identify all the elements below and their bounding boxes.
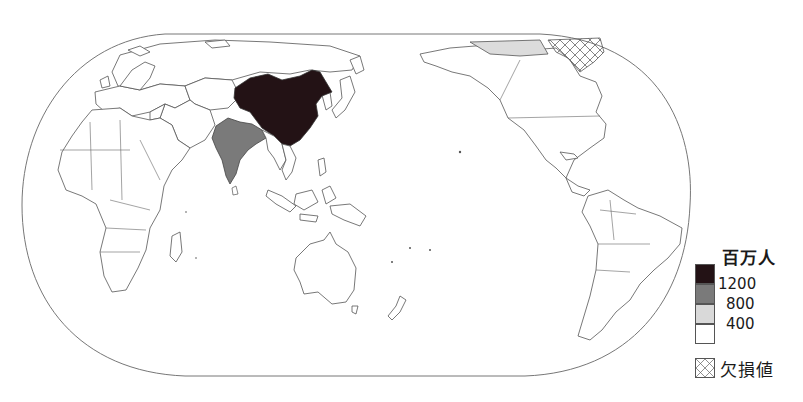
legend-swatch-under-400: [695, 324, 715, 344]
legend-tick-1200: 1200: [718, 277, 756, 292]
legend-swatch-missing: [695, 358, 715, 378]
world-map: [0, 0, 803, 402]
legend-tick-800: 800: [726, 297, 755, 312]
legend: 百万人 1200 800 400 欠損値: [690, 244, 800, 394]
legend-unit: 百万人: [722, 244, 776, 269]
legend-swatch-400-800: [695, 304, 715, 324]
legend-missing-label: 欠損値: [720, 356, 774, 381]
legend-swatch-over-1200: [695, 264, 715, 284]
legend-tick-400: 400: [726, 317, 755, 332]
legend-swatch-800-1200: [695, 284, 715, 304]
